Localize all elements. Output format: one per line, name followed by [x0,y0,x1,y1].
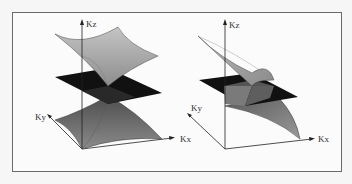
kx-arrow-icon [309,137,315,141]
ky-label-right: Ky [191,103,202,113]
kz-arrow-icon [80,19,84,25]
right-panel: Kz Ky Kx Kx [180,19,329,149]
kz-arrow-icon [223,19,227,25]
band-structure-diagram: Kz Ky Kz Ky Kx Kx [0,0,352,184]
kx-label-right: Kx [318,134,329,144]
left-panel: Kz Ky [35,19,175,149]
kz-label-left: Kz [86,19,97,29]
kx-arrow-icon [169,136,175,140]
kx-label-left-side: Kx [180,134,191,144]
kz-label-right: Kz [229,20,240,30]
ky-label-left: Ky [35,112,46,122]
kx-axis-right [225,139,312,149]
ky-axis-right [189,115,225,149]
